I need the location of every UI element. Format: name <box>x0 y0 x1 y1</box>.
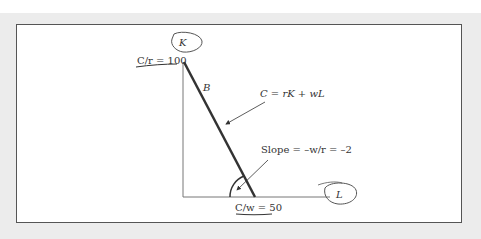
x-intercept-underline <box>236 214 272 215</box>
line-label-b: B <box>202 82 210 93</box>
slope-angle-arc <box>230 176 244 197</box>
k-circle-annotation <box>172 32 202 52</box>
isocost-line <box>184 62 255 197</box>
x-intercept-label: C/w = 50 <box>235 202 282 213</box>
slope-arrow <box>237 160 268 190</box>
isocost-diagram: K C/r = 100 B C = rK + wL Slope = –w/r =… <box>0 0 481 239</box>
y-axis-label: K <box>178 37 187 48</box>
x-axis-label: L <box>335 189 343 200</box>
equation-arrow <box>226 102 265 124</box>
equation-label: C = rK + wL <box>260 88 325 99</box>
slope-label: Slope = –w/r = –2 <box>261 144 352 155</box>
